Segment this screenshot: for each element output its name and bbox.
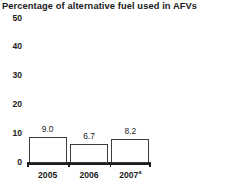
x-tick-label-text: 2005 — [38, 170, 57, 180]
chart-title: Percentage of alternative fuel used in A… — [2, 1, 197, 12]
x-tick-label-superscript: a — [138, 169, 141, 175]
x-tick-mark — [110, 162, 112, 167]
y-tick-label: 30 — [0, 71, 22, 80]
y-tick-label: 10 — [0, 129, 22, 138]
x-tick-label: 2007a — [104, 170, 156, 180]
x-tick-label-text: 2006 — [79, 170, 98, 180]
x-tick-mark — [68, 162, 70, 167]
y-tick-label: 0 — [0, 158, 22, 167]
x-tick-label-text: 2007 — [119, 170, 138, 180]
y-tick-label: 50 — [0, 14, 22, 23]
bar-chart: Percentage of alternative fuel used in A… — [0, 0, 239, 191]
y-axis: 01020304050 — [0, 14, 22, 170]
bar — [111, 139, 149, 163]
y-tick-label: 20 — [0, 100, 22, 109]
y-tick-label: 40 — [0, 42, 22, 51]
x-tick-mark — [27, 162, 29, 167]
bar — [70, 144, 108, 163]
plot-area — [27, 18, 151, 163]
x-tick-mark — [149, 162, 151, 167]
bar-value-label: 8.2 — [103, 127, 157, 136]
bar — [29, 137, 67, 163]
